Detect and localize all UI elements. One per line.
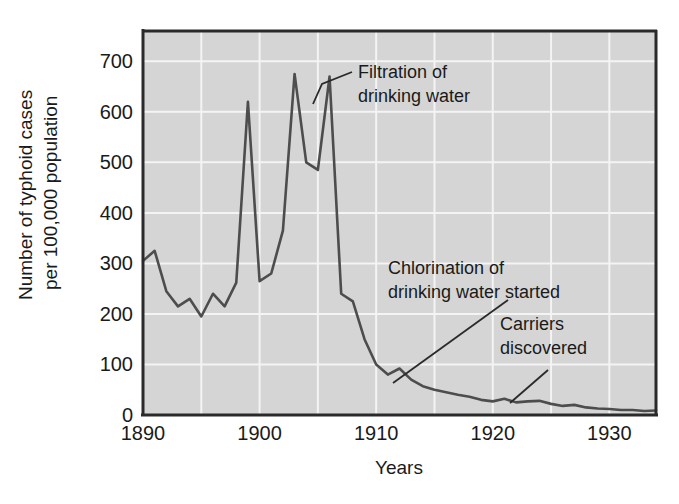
chart-figure: 0100200300400500600700 18901900191019201… [0, 0, 679, 504]
annotation-text-line: Chlorination of [388, 258, 505, 278]
y-axis-title: Number of typhoid cases per 100,000 popu… [15, 90, 61, 300]
y-tick-label: 300 [100, 252, 133, 274]
x-tick-label: 1900 [237, 422, 282, 444]
x-tick-label: 1890 [121, 422, 166, 444]
y-axis-tick-labels: 0100200300400500600700 [100, 50, 133, 426]
annotation-text-line: discovered [500, 338, 587, 358]
annotation-text-line: Carriers [500, 314, 564, 334]
x-tick-label: 1910 [354, 422, 399, 444]
annotation-text-line: drinking water [358, 86, 470, 106]
y-tick-label: 600 [100, 101, 133, 123]
y-axis-title-line1: Number of typhoid cases [15, 90, 36, 300]
y-tick-label: 500 [100, 151, 133, 173]
annotation-text-line: Filtration of [358, 62, 448, 82]
x-axis-title: Years [375, 457, 423, 478]
x-axis-tick-labels: 18901900191019201930 [121, 422, 632, 444]
y-tick-label: 400 [100, 202, 133, 224]
y-tick-label: 100 [100, 353, 133, 375]
y-tick-label: 200 [100, 303, 133, 325]
y-axis-title-line2: per 100,000 population [40, 96, 61, 290]
typhoid-cases-line-chart: 0100200300400500600700 18901900191019201… [0, 0, 679, 504]
annotation-text-line: drinking water started [388, 282, 560, 302]
x-tick-label: 1930 [587, 422, 632, 444]
y-tick-label: 700 [100, 50, 133, 72]
x-tick-label: 1920 [471, 422, 516, 444]
